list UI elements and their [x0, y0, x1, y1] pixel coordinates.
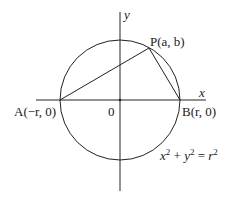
circle-equation: x2 + y2 = r2 — [159, 147, 218, 163]
point-b-coords: (r, 0) — [191, 104, 216, 119]
point-b-name: B — [182, 104, 191, 119]
point-p-label: P(a, b) — [150, 34, 185, 49]
eq-equals: = — [194, 148, 208, 163]
chord-ap — [60, 48, 149, 100]
point-p-coords: (a, b) — [157, 34, 184, 49]
point-b-label: B(r, 0) — [182, 104, 216, 119]
point-a-label: A(−r, 0) — [14, 104, 56, 119]
y-axis-label: y — [122, 7, 130, 22]
origin-dot — [119, 99, 121, 101]
chord-pb — [149, 48, 180, 100]
point-a-coords: (−r, 0) — [23, 104, 56, 119]
eq-r-exp: 2 — [213, 147, 218, 157]
x-axis-label: x — [198, 85, 205, 100]
diagram-canvas: y x 0 P(a, b) A(−r, 0) B(r, 0) x2 + y2 =… — [0, 0, 227, 199]
origin-label: 0 — [108, 104, 115, 119]
eq-plus: + — [170, 148, 184, 163]
point-p-name: P — [150, 34, 157, 49]
